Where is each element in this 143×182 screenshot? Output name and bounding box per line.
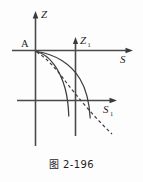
s-axis-label: S (120, 53, 126, 65)
z1-axis-group: Z 1 (73, 34, 91, 136)
z1-axis-label-subscript: 1 (88, 41, 91, 48)
point-a-label: A (21, 38, 29, 49)
curve-inner (37, 52, 69, 117)
s1-axis-arrowhead (110, 98, 118, 104)
coordinate-diagram: Z S Z 1 S 1 A (0, 0, 143, 155)
s1-axis-label-subscript: 1 (110, 110, 113, 117)
s1-axis-label: S (103, 103, 109, 115)
s-axis-arrowhead (126, 48, 134, 54)
figure-caption: 图 2-196 (0, 156, 143, 171)
curve-outer (37, 52, 91, 119)
z-axis-label: Z (41, 8, 48, 20)
s-axis-group: S (12, 48, 133, 65)
figure-container: Z S Z 1 S 1 A 图 2-196 (0, 0, 143, 182)
curve-asymptote (37, 52, 113, 134)
z-axis-group: Z (33, 8, 48, 146)
z1-axis-arrowhead (73, 37, 78, 44)
z-axis-arrowhead (33, 11, 39, 19)
z1-axis-label: Z (80, 34, 87, 46)
